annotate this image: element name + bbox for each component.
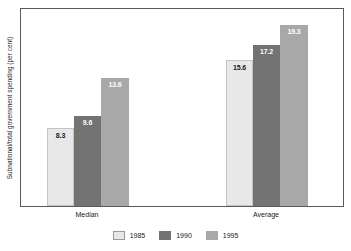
y-axis-title-container: Subnational/total government spending (p…	[0, 8, 20, 207]
legend-item-1995[interactable]: 1995	[206, 231, 239, 240]
bar-value-median-1995: 13.6	[101, 81, 129, 88]
y-axis-title: Subnational/total government spending (p…	[7, 36, 13, 178]
legend-item-1985[interactable]: 1985	[113, 231, 146, 240]
bar-median-1990[interactable]: 9.6	[74, 116, 101, 206]
x-axis-label-median: Median	[46, 211, 128, 218]
legend-swatch-1990	[159, 231, 171, 240]
legend-label-1995: 1995	[223, 232, 239, 239]
bar-value-median-1985: 8.3	[48, 132, 73, 139]
legend-swatch-1985	[113, 231, 125, 240]
chart-legend: 1985 1990 1995	[0, 231, 351, 240]
bar-group-median: 8.3 9.6 13.6	[47, 9, 129, 206]
bar-median-1985[interactable]: 8.3	[47, 128, 74, 206]
bar-value-average-1995: 19.3	[280, 28, 308, 35]
legend-label-1985: 1985	[130, 232, 146, 239]
bar-value-average-1985: 15.6	[227, 64, 252, 71]
bar-average-1990[interactable]: 17.2	[253, 45, 280, 206]
bar-value-average-1990: 17.2	[253, 48, 280, 55]
bar-average-1985[interactable]: 15.6	[226, 60, 253, 206]
plot-area: 8.3 9.6 13.6 15.6 17.2 19.3	[21, 9, 343, 206]
legend-item-1990[interactable]: 1990	[159, 231, 192, 240]
bar-median-1995[interactable]: 13.6	[101, 78, 129, 206]
legend-label-1990: 1990	[176, 232, 192, 239]
bar-chart-figure: Subnational/total government spending (p…	[0, 0, 351, 251]
x-axis-label-average: Average	[225, 211, 307, 218]
plot-frame: 8.3 9.6 13.6 15.6 17.2 19.3	[20, 8, 344, 207]
bar-value-median-1990: 9.6	[74, 119, 101, 126]
bar-average-1995[interactable]: 19.3	[280, 25, 308, 206]
legend-swatch-1995	[206, 231, 218, 240]
bar-group-average: 15.6 17.2 19.3	[226, 9, 308, 206]
